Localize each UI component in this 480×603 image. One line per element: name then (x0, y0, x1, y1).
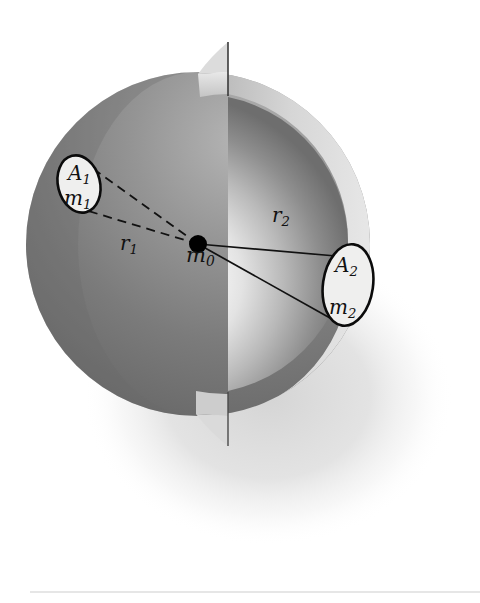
cut-face-top (198, 42, 228, 97)
figure-container: m0 A1 m1 A2 m2 r1 r2 (0, 0, 480, 603)
sphere-diagram: m0 A1 m1 A2 m2 r1 r2 (0, 0, 480, 603)
